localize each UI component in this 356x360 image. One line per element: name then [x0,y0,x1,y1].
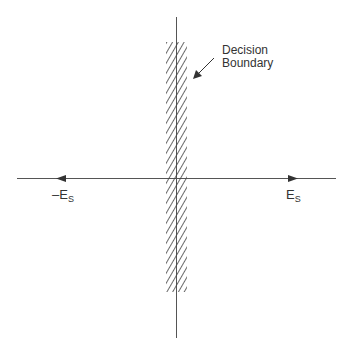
decision-boundary-diagram: Decision Boundary –ES ES [0,0,356,360]
annotation-label: Decision Boundary [222,44,273,70]
diagram-graphics [0,0,356,360]
positive-es-label: ES [286,188,301,203]
annotation-line2: Boundary [222,57,273,70]
negative-es-label: –ES [52,188,74,203]
left-arrow-icon [56,175,66,182]
right-arrow-icon [288,175,298,182]
annotation-pointer [198,58,214,74]
decision-boundary-region [166,42,187,292]
